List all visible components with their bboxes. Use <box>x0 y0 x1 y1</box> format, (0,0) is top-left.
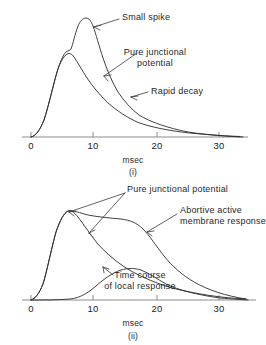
panel-i: Small spike Pure junctional potential Ra… <box>0 0 266 175</box>
panel-ii: Pure junctional potential Abortive activ… <box>0 170 266 345</box>
annotation-pure-junctional-potential-panel-ii: Pure junctional potential <box>127 184 228 195</box>
leader-pure-junctional-potential-panel-ii-b-arrowhead <box>89 230 95 237</box>
figure-container: Small spike Pure junctional potential Ra… <box>0 0 266 345</box>
panel-i-plot <box>0 0 266 175</box>
annotation-time-course-of-local-response-line2: of local response <box>88 281 192 292</box>
x-axis-title-panel-i: msec <box>122 155 143 165</box>
x-tick-label-20-panel-i: 20 <box>152 140 163 151</box>
annotation-abortive-active-membrane-response-line1: Abortive active <box>180 205 266 216</box>
x-axis-title-panel-ii: msec <box>122 318 143 328</box>
x-tick-label-30-panel-ii: 30 <box>214 303 225 314</box>
x-tick-label-30-panel-i: 30 <box>214 140 225 151</box>
panel-number-ii: (ii) <box>128 331 138 341</box>
leader-abortive-active-membrane-response <box>147 214 177 232</box>
x-tick-label-0-panel-ii: 0 <box>28 303 33 314</box>
annotation-time-course-of-local-response-line1: Time course <box>88 270 192 281</box>
leader-small-spike-arrowhead <box>94 25 101 30</box>
annotation-small-spike: Small spike <box>122 12 170 23</box>
leader-rapid-decay-arrowhead <box>131 96 138 100</box>
x-tick-label-10-panel-ii: 10 <box>88 303 99 314</box>
x-tick-label-0-panel-i: 0 <box>28 140 33 151</box>
annotation-pure-junctional-potential-line2: potential <box>112 58 198 69</box>
annotation-abortive-active-membrane-response-line2: membrane response <box>180 216 266 227</box>
curve-small-spike-panel-i <box>31 18 243 137</box>
annotation-abortive-active-membrane-response: Abortive active membrane response <box>180 205 266 226</box>
x-tick-label-10-panel-i: 10 <box>88 140 99 151</box>
annotation-pure-junctional-potential: Pure junctional potential <box>112 47 198 68</box>
annotation-time-course-of-local-response: Time course of local response <box>88 270 192 291</box>
x-tick-label-20-panel-ii: 20 <box>152 303 163 314</box>
annotation-pure-junctional-potential-line1: Pure junctional <box>112 47 198 58</box>
annotation-rapid-decay: Rapid decay <box>151 86 203 97</box>
